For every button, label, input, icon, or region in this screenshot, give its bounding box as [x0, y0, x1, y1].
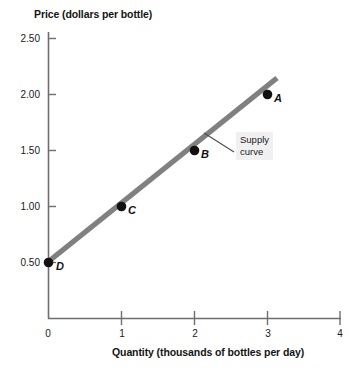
y-tick-label-1-00: 1.00 — [8, 201, 40, 212]
y-tick-label-2-50: 2.50 — [8, 33, 40, 44]
x-tick-label-2: 2 — [185, 328, 205, 339]
data-point-a — [263, 90, 273, 100]
x-tick-label-0: 0 — [38, 328, 58, 339]
data-point-b — [190, 146, 200, 156]
x-axis-title: Quantity (thousands of bottles per day) — [112, 346, 304, 358]
x-tick-label-3: 3 — [258, 328, 278, 339]
supply-curve-line — [46, 78, 277, 264]
data-point-label-c: C — [128, 204, 136, 216]
data-point-label-b: B — [201, 148, 209, 160]
supply-curve-annotation: Supply curve — [236, 132, 273, 160]
data-point-c — [117, 202, 127, 212]
y-tick-label-2-00: 2.00 — [8, 89, 40, 100]
x-tick-label-1: 1 — [112, 328, 132, 339]
supply-curve-chart: Price (dollars per bottle) — [0, 0, 350, 373]
annotation-line-2: curve — [240, 146, 269, 158]
data-point-label-a: A — [274, 92, 282, 104]
x-tick-label-4: 4 — [330, 328, 350, 339]
data-point-d — [44, 258, 54, 268]
data-point-label-d: D — [56, 260, 64, 272]
y-tick-label-0-50: 0.50 — [8, 257, 40, 268]
plot-area — [0, 0, 350, 373]
annotation-line-1: Supply — [240, 134, 269, 146]
y-tick-label-1-50: 1.50 — [8, 145, 40, 156]
